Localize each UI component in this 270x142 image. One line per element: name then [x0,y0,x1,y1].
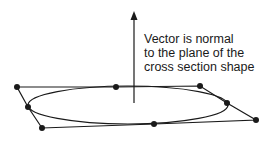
arrowhead-icon [131,11,138,20]
annotation-line-3: cross section shape [144,60,255,74]
control-point [14,84,20,90]
control-point [113,84,119,90]
cross-section-curve [28,86,228,124]
control-point [253,117,259,123]
cross-section-diagram: Vector is normal to the plane of the cro… [0,0,270,142]
control-point [151,121,157,127]
control-point [25,104,31,110]
annotation-line-1: Vector is normal [144,32,234,46]
control-point [39,125,45,131]
control-point [224,100,230,106]
annotation-line-2: to the plane of the [144,46,244,60]
control-point [197,83,203,89]
